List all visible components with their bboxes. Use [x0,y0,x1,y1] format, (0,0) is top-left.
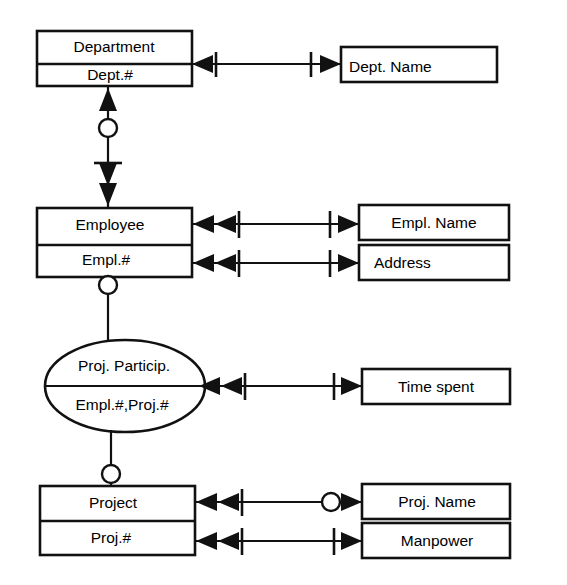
connection-project-manpower [195,528,362,555]
attribute-empl-name[interactable]: Empl. Name [359,205,509,240]
employee-key-label: Empl.# [82,251,131,268]
proj-particip-name-label: Proj. Particip. [78,357,170,374]
entity-department[interactable]: Department Dept.# [37,31,192,86]
connection-employee-empl-name [192,211,359,238]
arrow-left-icon [193,254,214,272]
attribute-proj-name[interactable]: Proj. Name [362,484,510,519]
attribute-address[interactable]: Address [359,245,509,280]
arrow-left-many-icon [215,254,236,272]
proj-particip-key-label: Empl.#,Proj.# [75,396,168,413]
circle-zero-icon [322,493,340,511]
entity-employee[interactable]: Employee Empl.# [37,208,192,277]
arrow-right-icon [338,215,359,233]
arrow-up-icon [99,88,117,111]
connection-department-dept-name [192,52,341,77]
arrow-left-many-icon [218,532,239,550]
empl-name-label: Empl. Name [391,214,476,231]
project-key-label: Proj.# [91,529,132,546]
arrow-left-icon [196,532,217,550]
arrow-left-icon [192,55,213,73]
arrow-right-icon [341,493,362,511]
circle-zero-icon [99,276,117,294]
arrow-left-many-icon [218,493,239,511]
arrow-right-icon [341,532,362,550]
circle-zero-icon [102,465,120,483]
arrow-right-icon [338,254,359,272]
connection-proj-particip-project [102,430,120,486]
employee-name-label: Employee [76,216,145,233]
project-name-label: Project [89,494,138,511]
connection-department-employee [94,86,122,208]
arrow-right-icon [320,55,341,73]
department-key-label: Dept.# [87,66,133,83]
arrow-left-many-icon [221,377,242,395]
connection-project-proj-name [195,489,362,516]
connection-employee-proj-particip [99,276,117,341]
attribute-manpower[interactable]: Manpower [362,523,510,558]
entity-project[interactable]: Project Proj.# [40,486,195,555]
circle-zero-icon [99,119,117,137]
department-name-label: Department [74,38,156,55]
connection-proj-particip-time-spent [199,373,362,400]
arrow-down-icon [99,163,117,186]
arrow-down-icon [99,183,117,206]
connection-employee-address [192,250,359,277]
dept-name-label: Dept. Name [349,58,432,75]
relationship-proj-particip[interactable]: Proj. Particip. Empl.#,Proj.# [45,340,205,432]
arrow-right-icon [341,377,362,395]
manpower-label: Manpower [401,532,473,549]
arrow-left-icon [193,215,214,233]
er-diagram-svg: Department Dept.# Dept. Name [0,0,567,585]
attribute-time-spent[interactable]: Time spent [362,369,510,404]
attribute-dept-name[interactable]: Dept. Name [341,47,497,82]
arrow-left-icon [196,493,217,511]
er-diagram-canvas: Department Dept.# Dept. Name [0,0,567,585]
arrow-left-many-icon [215,215,236,233]
address-label: Address [374,254,431,271]
time-spent-label: Time spent [398,378,475,395]
proj-name-label: Proj. Name [398,493,476,510]
